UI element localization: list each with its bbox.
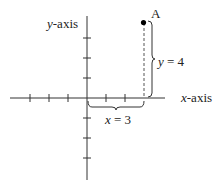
point-a-marker (141, 20, 146, 25)
x-equals-3-label: x = 3 (104, 112, 131, 127)
point-a-label: A (151, 6, 161, 21)
coordinate-plane-diagram: y-axis x-axis A y = 4 x = 3 (0, 0, 217, 190)
y-axis-label: y-axis (45, 16, 78, 31)
x-axis-label: x-axis (180, 90, 212, 105)
y-equals-4-label: y = 4 (156, 54, 185, 69)
y-distance-brace (148, 21, 155, 97)
x-distance-brace (88, 101, 144, 110)
